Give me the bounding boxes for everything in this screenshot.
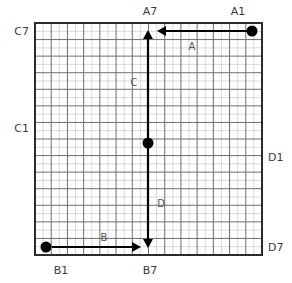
- axis-label-a7: A7: [143, 5, 158, 18]
- axis-label-a1: A1: [231, 5, 246, 18]
- point-a1: [247, 26, 258, 37]
- segment-label-c: C: [131, 77, 138, 88]
- segment-label-a: A: [189, 41, 196, 52]
- point-b1: [41, 242, 52, 253]
- diagram-canvas: A7A1C7C1D1D7B1B7 ACDB: [0, 0, 292, 283]
- axis-label-d7: D7: [268, 241, 283, 254]
- grid-diagram-svg: A7A1C7C1D1D7B1B7 ACDB: [0, 0, 292, 283]
- axis-label-d1: D1: [268, 151, 283, 164]
- axis-label-c7: C7: [14, 25, 29, 38]
- segment-label-b: B: [101, 232, 108, 243]
- axis-label-b7: B7: [143, 264, 158, 277]
- axis-label-b1: B1: [54, 264, 69, 277]
- segment-label-d: D: [157, 198, 165, 209]
- axis-label-c1: C1: [14, 122, 29, 135]
- point-center: [143, 138, 154, 149]
